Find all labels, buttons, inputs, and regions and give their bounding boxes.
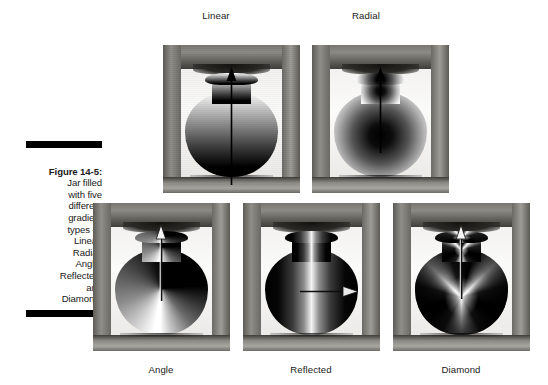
- panel-label-linear: Linear: [186, 10, 246, 22]
- jar-rim: [435, 231, 487, 243]
- crate-jamb-right: [512, 203, 530, 351]
- crate-beam-bottom: [312, 177, 449, 193]
- panel-label-reflected: Reflected: [281, 364, 341, 376]
- crate-jamb-left: [243, 203, 261, 351]
- crate-beam-bottom: [93, 335, 230, 351]
- caption-rule-bottom: [26, 310, 102, 317]
- jar-rim: [285, 231, 337, 243]
- jar-linear: [185, 70, 278, 177]
- crate-jamb-left: [163, 45, 181, 193]
- crate-jamb-right: [282, 45, 300, 193]
- photo-panel-diamond[interactable]: [393, 203, 530, 351]
- crate-beam-bottom: [243, 335, 380, 351]
- jar-radial: [334, 70, 427, 177]
- crate-jamb-right: [362, 203, 380, 351]
- crate-jamb-right: [212, 203, 230, 351]
- photo-panel-angle[interactable]: [93, 203, 230, 351]
- panel-label-angle: Angle: [131, 364, 191, 376]
- photo-panel-reflected[interactable]: [243, 203, 380, 351]
- figure-caption-block: Figure 14-5:Jar filled with five differe…: [18, 141, 102, 317]
- crate-beam-bottom: [393, 335, 530, 351]
- crate-jamb-left: [393, 203, 411, 351]
- jar-diamond: [415, 228, 508, 335]
- crate-jamb-left: [312, 45, 330, 193]
- photo-panel-linear[interactable]: [163, 45, 300, 193]
- panel-label-diamond: Diamond: [431, 364, 491, 376]
- jar-angle: [115, 228, 208, 335]
- photo-panel-radial[interactable]: [312, 45, 449, 193]
- jar-rim: [354, 73, 406, 85]
- jar-rim: [135, 231, 187, 243]
- caption-rule-top: [26, 141, 102, 148]
- figure-number-label: Figure 14-5:: [18, 166, 102, 178]
- crate-jamb-left: [93, 203, 111, 351]
- panel-label-radial: Radial: [336, 10, 396, 22]
- jar-reflected: [265, 228, 358, 335]
- crate-jamb-right: [431, 45, 449, 193]
- jar-rim: [205, 73, 257, 85]
- figure-caption-text: Figure 14-5:Jar filled with five differe…: [18, 154, 102, 305]
- crate-beam-bottom: [163, 177, 300, 193]
